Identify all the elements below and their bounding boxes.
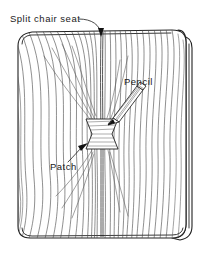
split-chair-seat-drawing: Split chair seat Pencil Patch [0, 0, 205, 253]
label-pencil: Pencil [124, 76, 153, 87]
figure-container: Split chair seat Pencil Patch [0, 0, 205, 253]
label-patch: Patch [50, 161, 77, 172]
label-split-chair-seat: Split chair seat [10, 13, 80, 24]
